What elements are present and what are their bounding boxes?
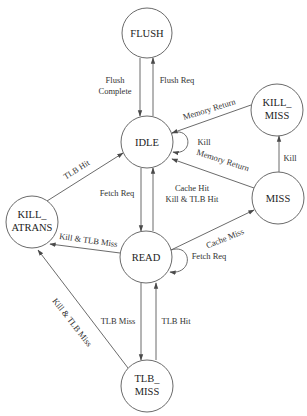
state-label: FLUSH	[130, 28, 164, 39]
state-label: ATRANS	[12, 222, 53, 233]
edge-label: Fetch Req	[100, 188, 135, 198]
edge-flush-to-idle: Flush Complete	[98, 58, 140, 116]
edge-idle-to-read: Fetch Req	[100, 168, 141, 231]
edge-label: Kill & TLB Hit	[166, 194, 220, 204]
state-diagram: Flush Complete Flush Req Kill Memory Ret…	[0, 0, 307, 416]
edge-read-to-miss: Cache Miss	[171, 210, 254, 250]
state-kill-atrans: KILL_ ATRANS	[6, 196, 58, 248]
edge-label: Kill	[283, 153, 297, 163]
edge-miss-to-idle: Memory Return	[172, 147, 254, 188]
state-flush: FLUSH	[122, 8, 172, 58]
state-miss: MISS	[252, 172, 304, 224]
edge-label: Kill	[197, 137, 211, 147]
state-read: READ	[120, 231, 172, 283]
edge-read-to-tlbmiss: TLB Miss	[101, 283, 141, 360]
edge-tlbmiss-to-read: TLB Hit	[156, 283, 191, 360]
state-tlb-miss: TLB_ MISS	[121, 360, 173, 412]
edge-label: Flush Req	[160, 75, 195, 85]
edge-killmiss-to-idle: Memory Return	[172, 96, 251, 133]
edge-read-to-idle: Cache Hit Kill & TLB Hit	[153, 168, 219, 231]
edge-idle-to-flush: Flush Req	[153, 58, 195, 116]
state-kill-miss: KILL_ MISS	[251, 84, 303, 136]
edge-label: Kill & TLB Miss	[50, 296, 94, 348]
state-label: KILL_	[17, 209, 47, 220]
edge-label: Flush	[106, 75, 126, 85]
edge-label: Complete	[98, 86, 131, 96]
state-label: MISS	[266, 193, 291, 204]
edge-label: Fetch Req	[192, 251, 227, 261]
edge-read-to-killatrans: Kill & TLB Miss	[50, 231, 120, 253]
state-label: READ	[132, 252, 161, 263]
edge-tlbmiss-to-killatrans: Kill & TLB Miss	[38, 250, 128, 368]
state-label: TLB_	[134, 373, 160, 384]
edge-miss-to-killmiss: Kill	[279, 136, 297, 172]
edge-label: Cache Hit	[175, 183, 210, 193]
state-idle: IDLE	[121, 116, 173, 168]
state-label: MISS	[135, 386, 160, 397]
edge-label: Memory Return	[195, 147, 251, 174]
edge-read-self-fetch: Fetch Req	[170, 249, 227, 272]
edge-label: TLB Miss	[101, 316, 136, 326]
edge-label: Memory Return	[182, 96, 238, 122]
state-label: KILL_	[262, 97, 292, 108]
edge-label: TLB Hit	[61, 157, 91, 181]
edge-label: TLB Hit	[161, 316, 191, 326]
state-label: MISS	[265, 110, 290, 121]
state-label: IDLE	[135, 137, 159, 148]
edge-label: Cache Miss	[205, 226, 246, 250]
